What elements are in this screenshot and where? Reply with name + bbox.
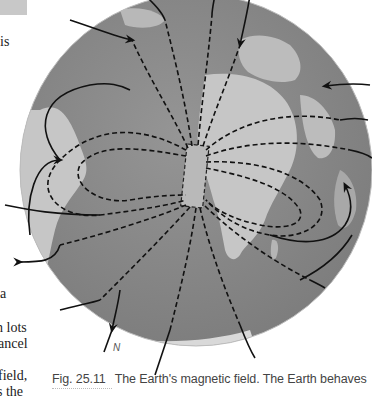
earth-magnetic-field-figure bbox=[0, 0, 372, 397]
figure-number: Fig. 25.11 bbox=[52, 372, 106, 386]
north-pole-label: N bbox=[113, 342, 120, 353]
figure-caption-text: The Earth's magnetic field. The Earth be… bbox=[115, 372, 367, 386]
caption-continuation bbox=[52, 388, 112, 395]
figure-caption: Fig. 25.11The Earth's magnetic field. Th… bbox=[52, 372, 367, 386]
